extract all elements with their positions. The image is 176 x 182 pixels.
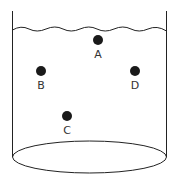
point-d: D	[130, 66, 140, 92]
label-c: C	[63, 124, 71, 137]
point-c: C	[62, 111, 72, 137]
label-b: B	[37, 79, 45, 92]
label-a: A	[94, 48, 102, 61]
dot-a	[93, 35, 103, 45]
dot-c	[62, 111, 72, 121]
point-b: B	[36, 66, 46, 92]
point-a: A	[93, 35, 103, 61]
dot-d	[130, 66, 140, 76]
container-base	[13, 141, 167, 173]
liquid-surface	[13, 27, 167, 31]
container-diagram: A B C D	[0, 0, 176, 182]
label-d: D	[131, 79, 139, 92]
dot-b	[36, 66, 46, 76]
